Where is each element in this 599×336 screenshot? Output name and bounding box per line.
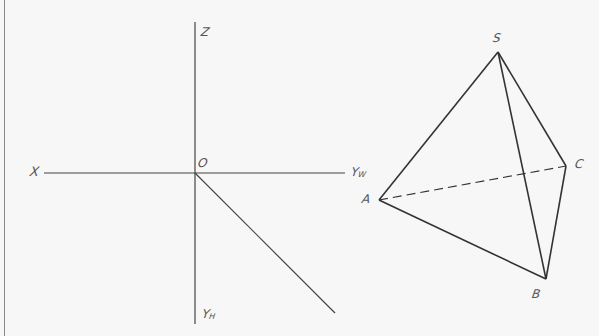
tetrahedron: [379, 52, 566, 279]
edge-BC: [546, 166, 566, 279]
edge-AB: [379, 200, 546, 279]
label-origin: O: [197, 157, 208, 169]
label-vertex-a: A: [361, 193, 371, 205]
label-vertex-c: C: [574, 158, 584, 170]
diagram-canvas: X Z O YW YH S A B C: [0, 0, 599, 336]
edge-AC-hidden: [379, 166, 566, 200]
yh-axis-diagonal: [195, 173, 335, 313]
label-vertex-s: S: [492, 32, 501, 44]
edge-SC: [498, 52, 566, 166]
label-yh: YH: [201, 308, 216, 323]
label-vertex-b: B: [531, 288, 541, 300]
label-x: X: [29, 166, 40, 178]
diagram-svg: [0, 0, 599, 336]
label-yw: YW: [350, 166, 367, 181]
edge-SB: [498, 52, 546, 279]
label-z: Z: [200, 26, 210, 38]
edge-SA: [379, 52, 498, 200]
